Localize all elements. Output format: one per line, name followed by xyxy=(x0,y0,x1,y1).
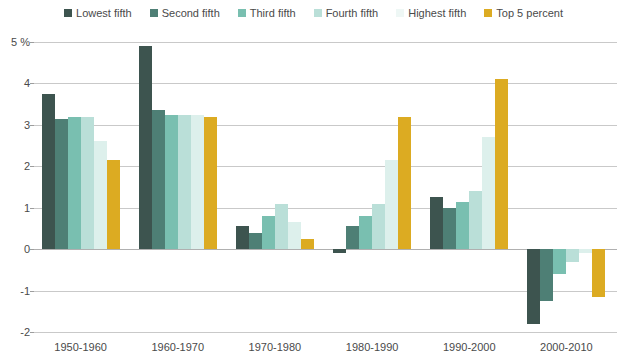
legend-item-0[interactable]: Lowest fifth xyxy=(64,8,132,19)
legend-swatch-icon xyxy=(64,9,72,17)
legend-swatch-icon xyxy=(396,9,404,17)
legend-item-1[interactable]: Second fifth xyxy=(150,8,220,19)
legend-item-label: Highest fifth xyxy=(408,8,466,19)
y-tick-label: -1 xyxy=(20,285,30,296)
legend-item-label: Second fifth xyxy=(162,8,220,19)
legend-item-label: Lowest fifth xyxy=(76,8,132,19)
y-axis: -2-1012345 % xyxy=(0,26,34,352)
x-tick-label: 2000-2010 xyxy=(540,342,593,352)
x-tick-label: 1960-1970 xyxy=(151,342,204,352)
legend-item-2[interactable]: Third fifth xyxy=(238,8,296,19)
chart-legend: Lowest fifthSecond fifthThird fifthFourt… xyxy=(0,0,617,26)
legend-item-4[interactable]: Highest fifth xyxy=(396,8,466,19)
x-axis: 1950-19601960-19701970-19801980-19901990… xyxy=(34,26,617,352)
legend-item-3[interactable]: Fourth fifth xyxy=(314,8,379,19)
legend-swatch-icon xyxy=(484,9,492,17)
x-tick-label: 1950-1960 xyxy=(54,342,107,352)
legend-swatch-icon xyxy=(314,9,322,17)
legend-item-5[interactable]: Top 5 percent xyxy=(484,8,563,19)
x-tick-label: 1970-1980 xyxy=(249,342,302,352)
legend-item-label: Top 5 percent xyxy=(496,8,563,19)
legend-swatch-icon xyxy=(150,9,158,17)
x-tick-label: 1990-2000 xyxy=(443,342,496,352)
legend-item-label: Third fifth xyxy=(250,8,296,19)
legend-item-label: Fourth fifth xyxy=(326,8,379,19)
legend-swatch-icon xyxy=(238,9,246,17)
chart-plot-area: -2-1012345 % 1950-19601960-19701970-1980… xyxy=(0,26,617,352)
x-tick-label: 1980-1990 xyxy=(346,342,399,352)
y-tick-label: 5 % xyxy=(11,37,30,48)
y-tick-label: -2 xyxy=(20,327,30,338)
